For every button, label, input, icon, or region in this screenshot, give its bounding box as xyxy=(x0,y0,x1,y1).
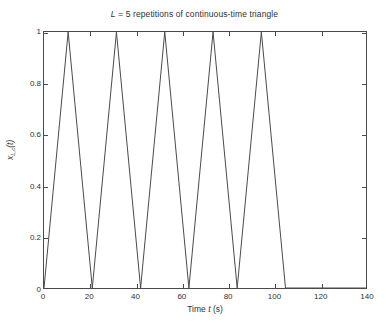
plot-area xyxy=(43,31,367,289)
ytick-left-1 xyxy=(44,33,48,34)
data-line-svg xyxy=(44,32,366,288)
ytick-right-0.8 xyxy=(362,84,366,85)
xtick-bottom-20 xyxy=(90,284,91,288)
xlabel-prefix: Time xyxy=(187,304,208,314)
ytick-left-0.6 xyxy=(44,135,48,136)
xtick-bottom-40 xyxy=(137,284,138,288)
yticklabel-0.8: 0.8 xyxy=(30,78,41,87)
ytick-left-0.2 xyxy=(44,238,48,239)
yticklabel-0.4: 0.4 xyxy=(30,181,41,190)
xtick-top-120 xyxy=(322,32,323,36)
xticklabel-140: 140 xyxy=(360,292,373,301)
figure-canvas: L = 5 repetitions of continuous-time tri… xyxy=(0,0,389,323)
xticklabel-20: 20 xyxy=(85,292,94,301)
xtick-bottom-60 xyxy=(183,284,184,288)
yticklabel-0.2: 0.2 xyxy=(30,233,41,242)
ylabel-base: x xyxy=(5,156,15,160)
xtick-top-20 xyxy=(90,32,91,36)
chart-title: L = 5 repetitions of continuous-time tri… xyxy=(0,9,389,20)
ylabel-subscript: L,c xyxy=(10,148,16,156)
xtick-top-40 xyxy=(137,32,138,36)
xlabel-suffix: (s) xyxy=(211,304,223,314)
xticklabel-0: 0 xyxy=(41,292,45,301)
triangle-waveform-line xyxy=(44,32,366,288)
xtick-top-80 xyxy=(229,32,230,36)
ytick-left-0.8 xyxy=(44,84,48,85)
xticklabel-60: 60 xyxy=(177,292,186,301)
x-axis-label: Time t (s) xyxy=(43,304,367,314)
ytick-right-1 xyxy=(362,33,366,34)
ylabel-argument: (t) xyxy=(5,140,15,148)
xtick-bottom-120 xyxy=(322,284,323,288)
xticklabel-80: 80 xyxy=(224,292,233,301)
xticklabel-120: 120 xyxy=(314,292,327,301)
ytick-right-0.4 xyxy=(362,187,366,188)
yticklabel-1: 1 xyxy=(37,27,41,36)
xtick-bottom-100 xyxy=(275,284,276,288)
ytick-right-0.2 xyxy=(362,238,366,239)
xticklabel-40: 40 xyxy=(131,292,140,301)
title-rest: = 5 repetitions of continuous-time trian… xyxy=(116,9,278,19)
xtick-bottom-80 xyxy=(229,284,230,288)
ytick-left-0.4 xyxy=(44,187,48,188)
yticklabel-0: 0 xyxy=(37,285,41,294)
ytick-right-0.6 xyxy=(362,135,366,136)
xtick-top-60 xyxy=(183,32,184,36)
xticklabel-100: 100 xyxy=(268,292,281,301)
yticklabel-0.6: 0.6 xyxy=(30,130,41,139)
xtick-top-100 xyxy=(275,32,276,36)
y-axis-label: xL,c(t) xyxy=(5,140,18,160)
